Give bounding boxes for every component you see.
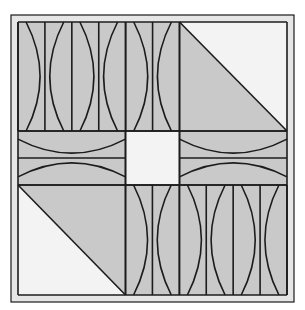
center-square	[126, 131, 180, 185]
quilt-block-diagram	[0, 0, 305, 310]
